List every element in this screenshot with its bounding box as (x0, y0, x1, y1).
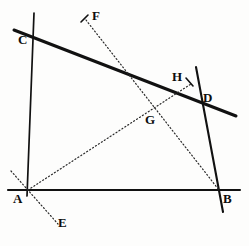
point-label-F: F (92, 9, 100, 22)
point-label-A: A (13, 192, 22, 205)
geometry-figure: A B C D E F G H (0, 0, 249, 246)
ray-AH (28, 84, 191, 190)
point-label-B: B (223, 192, 232, 205)
point-label-C: C (18, 33, 27, 46)
geometry-canvas (0, 0, 249, 246)
ray-FB (86, 20, 219, 190)
point-label-D: D (203, 91, 212, 104)
point-label-G: G (145, 113, 155, 126)
point-label-H: H (172, 70, 182, 83)
point-label-E: E (58, 216, 67, 229)
segment-AC (27, 13, 34, 196)
